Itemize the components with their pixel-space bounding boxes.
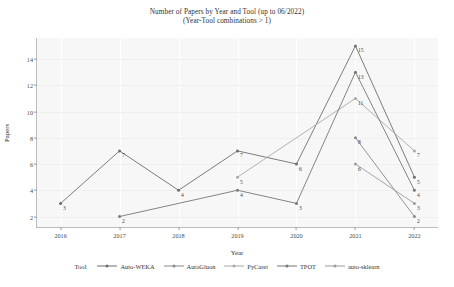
series-point-marker bbox=[413, 189, 416, 192]
chart-figure: Number of Papers by Year and Tool (up to… bbox=[0, 0, 454, 287]
x-axis-tick-mark bbox=[119, 227, 120, 230]
series-point-marker bbox=[236, 189, 239, 192]
series-point-marker bbox=[354, 97, 357, 100]
legend-item-autogluon[interactable]: AutoGluon bbox=[164, 262, 216, 270]
legend-item-pycaret[interactable]: PyCaret bbox=[224, 262, 268, 270]
x-axis-tick-label: 2018 bbox=[172, 232, 184, 239]
legend-item-label: AutoGluon bbox=[187, 263, 216, 270]
legend-item-tpot[interactable]: TPOT bbox=[277, 262, 316, 270]
chart-subtitle: (Year-Tool combinations > 1) bbox=[0, 17, 454, 26]
series-point-marker bbox=[413, 149, 416, 152]
chart-title: Number of Papers by Year and Tool (up to… bbox=[0, 8, 454, 17]
series-point-marker bbox=[413, 202, 416, 205]
x-axis-tick-label: 2021 bbox=[349, 232, 361, 239]
series-point-marker bbox=[354, 136, 357, 139]
series-point-marker bbox=[295, 202, 298, 205]
series-line bbox=[120, 72, 415, 216]
x-axis-tick-label: 2017 bbox=[113, 232, 125, 239]
x-axis-tick-mark bbox=[60, 227, 61, 230]
x-axis-tick-label: 2019 bbox=[231, 232, 243, 239]
y-axis-tick-label: 6 bbox=[30, 161, 33, 168]
legend-key-icon bbox=[277, 262, 297, 270]
legend-key-icon bbox=[97, 262, 117, 270]
series-lines bbox=[37, 38, 438, 227]
legend-key-icon bbox=[325, 262, 345, 270]
legend-key-icon bbox=[224, 262, 244, 270]
x-axis-label: Year bbox=[36, 249, 438, 256]
legend-item-auto-sklearn[interactable]: auto-sklearn bbox=[325, 262, 380, 270]
series-point-marker bbox=[118, 149, 121, 152]
chart-legend: Tool Auto-WEKAAutoGluonPyCaretTPOTauto-s… bbox=[0, 262, 454, 270]
series-line bbox=[61, 46, 415, 204]
x-axis-tick-label: 2020 bbox=[290, 232, 302, 239]
series-point-marker bbox=[236, 149, 239, 152]
legend-key-icon bbox=[164, 262, 184, 270]
series-point-marker bbox=[295, 163, 298, 166]
plot-area: 3747615582511724313463 2468101214 201620… bbox=[36, 38, 438, 228]
y-axis-tick-label: 10 bbox=[27, 108, 33, 115]
y-axis-tick-label: 12 bbox=[27, 82, 33, 89]
x-axis-tick-label: 2022 bbox=[408, 232, 420, 239]
x-axis-tick-mark bbox=[414, 227, 415, 230]
series-point-marker bbox=[59, 202, 62, 205]
y-axis-tick-mark bbox=[34, 137, 37, 138]
legend-title: Tool bbox=[74, 263, 86, 270]
series-point-marker bbox=[236, 176, 239, 179]
y-axis-tick-label: 8 bbox=[30, 134, 33, 141]
series-point-marker bbox=[413, 176, 416, 179]
y-axis-tick-mark bbox=[34, 85, 37, 86]
series-point-marker bbox=[354, 163, 357, 166]
x-axis-tick-mark bbox=[355, 227, 356, 230]
y-axis-tick-mark bbox=[34, 59, 37, 60]
x-axis-tick-label: 2016 bbox=[54, 232, 66, 239]
y-axis-tick-mark bbox=[34, 164, 37, 165]
series-point-marker bbox=[177, 189, 180, 192]
legend-item-label: Auto-WEKA bbox=[120, 263, 154, 270]
x-axis-tick-mark bbox=[237, 227, 238, 230]
y-axis-tick-mark bbox=[34, 216, 37, 217]
series-point-marker bbox=[354, 71, 357, 74]
legend-item-label: auto-sklearn bbox=[348, 263, 380, 270]
chart-title-block: Number of Papers by Year and Tool (up to… bbox=[0, 8, 454, 26]
x-axis-tick-mark bbox=[296, 227, 297, 230]
series-line bbox=[355, 164, 414, 203]
x-axis-tick-mark bbox=[178, 227, 179, 230]
series-point-marker bbox=[413, 215, 416, 218]
y-axis-tick-label: 4 bbox=[30, 187, 33, 194]
legend-item-auto-weka[interactable]: Auto-WEKA bbox=[97, 262, 154, 270]
y-axis-tick-mark bbox=[34, 190, 37, 191]
series-point-marker bbox=[118, 215, 121, 218]
series-point-marker bbox=[354, 44, 357, 47]
series-line bbox=[355, 138, 414, 217]
legend-item-label: TPOT bbox=[300, 263, 316, 270]
y-axis-label: Papers bbox=[3, 124, 10, 142]
legend-item-label: PyCaret bbox=[247, 263, 268, 270]
y-axis-tick-mark bbox=[34, 111, 37, 112]
y-axis-tick-label: 14 bbox=[27, 56, 33, 63]
y-axis-tick-label: 2 bbox=[30, 213, 33, 220]
